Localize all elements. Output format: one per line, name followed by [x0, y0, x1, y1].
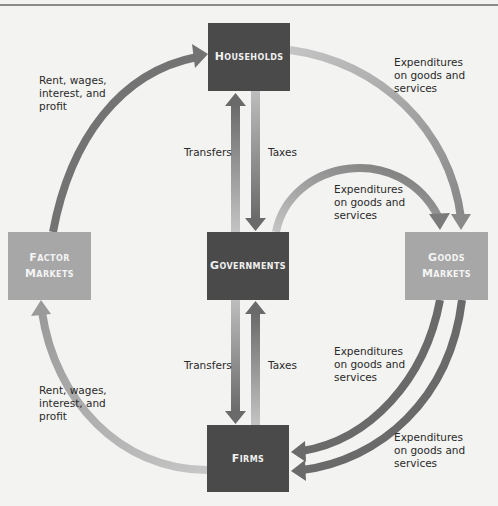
- label-expenditures-governments: Expenditures on goods and services: [334, 183, 405, 222]
- goods-markets-label-line2: Markets: [422, 266, 471, 282]
- arrow-transfers-to-households: [225, 93, 246, 232]
- factor-markets-node: Factor Markets: [8, 232, 91, 300]
- factor-markets-label-line1: Factor: [29, 250, 69, 266]
- arrow-factor-to-households: [53, 44, 208, 232]
- label-rent-wages-top: Rent, wages, interest, and profit: [39, 74, 107, 113]
- arrow-taxes-from-firms: [245, 301, 266, 425]
- households-node: Households: [208, 23, 290, 91]
- factor-markets-label-line2: Markets: [25, 266, 74, 282]
- label-rent-wages-bottom: Rent, wages, interest, and profit: [39, 384, 107, 423]
- label-transfers-bottom: Transfers: [184, 359, 232, 372]
- governments-node: Governments: [207, 232, 289, 300]
- goods-markets-label-line1: Goods: [428, 250, 465, 266]
- firms-node: Firms: [207, 425, 289, 492]
- label-taxes-top: Taxes: [268, 146, 297, 159]
- label-expenditures-households: Expenditures on goods and services: [394, 56, 465, 95]
- label-taxes-bottom: Taxes: [268, 359, 297, 372]
- label-expenditures-goods-to-firms-outer: Expenditures on goods and services: [394, 431, 465, 470]
- label-transfers-top: Transfers: [184, 146, 232, 159]
- goods-markets-node: Goods Markets: [405, 232, 488, 300]
- households-label: Households: [215, 49, 284, 65]
- firms-label: Firms: [232, 451, 264, 467]
- label-expenditures-goods-to-firms-inner: Expenditures on goods and services: [334, 345, 405, 384]
- governments-label: Governments: [210, 258, 286, 274]
- arrow-taxes-to-governments: [245, 91, 266, 231]
